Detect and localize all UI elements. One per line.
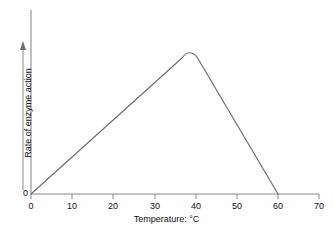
x-tick-label-70: 70	[309, 201, 329, 211]
enzyme-activity-curve	[31, 53, 278, 194]
x-tick-label-30: 30	[145, 201, 165, 211]
x-tick-label-10: 10	[62, 201, 82, 211]
x-tick-label-40: 40	[186, 201, 206, 211]
y-axis-title: Rate of enzyme action	[23, 33, 33, 193]
x-tick-label-0: 0	[21, 201, 41, 211]
x-tick-label-50: 50	[227, 201, 247, 211]
x-axis-ticks	[31, 194, 319, 199]
x-axis-title: Temperature: °C	[0, 214, 333, 224]
x-tick-label-20: 20	[103, 201, 123, 211]
x-tick-label-60: 60	[268, 201, 288, 211]
chart-plot-area	[0, 0, 333, 235]
enzyme-rate-chart: 0 10 20 30 40 50 60 70 0 Temperature: °C…	[0, 0, 333, 235]
